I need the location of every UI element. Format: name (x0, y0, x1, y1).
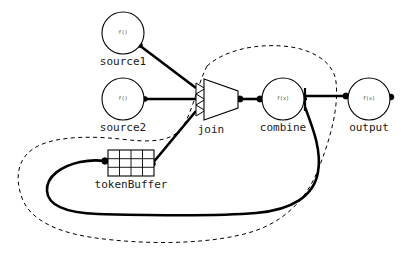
dataflow-diagram: f() source1 f() source2 join f(x) combin… (0, 0, 401, 260)
node-source1[interactable]: f() source1 (100, 12, 146, 68)
tokenbuffer-label: tokenBuffer (95, 178, 168, 191)
source2-label: source2 (100, 121, 146, 134)
edge-source1-join (139, 45, 196, 88)
combine-label: combine (260, 121, 306, 134)
source2-inner-label: f() (118, 95, 127, 101)
join-trapezoid[interactable] (204, 79, 238, 120)
combine-inner-label: f(x) (277, 95, 290, 101)
join-label: join (198, 123, 225, 136)
source1-label: source1 (100, 55, 146, 68)
node-output[interactable]: f(x) output (348, 78, 390, 134)
diagram-canvas: f() source1 f() source2 join f(x) combin… (0, 0, 401, 260)
node-join[interactable]: join (198, 79, 238, 136)
arrowhead-tokenbuffer-in-dot (102, 158, 109, 165)
node-combine[interactable]: f(x) combine (260, 78, 306, 134)
source1-inner-label: f() (118, 29, 127, 35)
node-tokenbuffer[interactable]: tokenBuffer (95, 150, 168, 191)
node-source2[interactable]: f() source2 (100, 78, 146, 134)
output-inner-label: f(x) (363, 95, 376, 101)
edge-tokenbuffer-join (152, 111, 196, 164)
output-label: output (349, 121, 389, 134)
